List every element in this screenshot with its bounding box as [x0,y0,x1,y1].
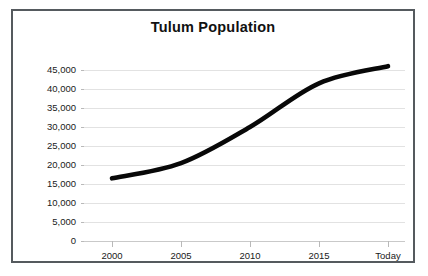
y-axis-label-0: 0 [71,235,76,246]
y-axis-label-45000: 45,000 [47,64,76,75]
x-axis-label-2010: 2010 [239,250,260,261]
y-axis-label-25000: 25,000 [47,140,76,151]
chart-frame: Tulum Population [11,9,415,263]
y-axis-label-5000: 5,000 [52,216,76,227]
y-axis-label-35000: 35,000 [47,102,76,113]
y-axis-label-10000: 10,000 [47,197,76,208]
y-axis-label-15000: 15,000 [47,178,76,189]
x-axis-label-2005: 2005 [170,250,191,261]
x-axis-ticks [112,241,388,247]
y-axis-labels: 45,000 40,000 35,000 30,000 25,000 20,00… [47,64,76,246]
population-line-series [112,66,388,178]
y-axis-label-30000: 30,000 [47,121,76,132]
x-axis-label-today: Today [375,250,401,261]
gridlines [84,70,405,222]
line-chart-plot: 45,000 40,000 35,000 30,000 25,000 20,00… [13,11,417,265]
y-axis-label-40000: 40,000 [47,83,76,94]
y-axis-label-20000: 20,000 [47,159,76,170]
y-axis-ticks [81,70,84,241]
x-axis-labels: 2000 2005 2010 2015 Today [101,250,400,261]
x-axis-label-2015: 2015 [308,250,329,261]
x-axis-label-2000: 2000 [101,250,122,261]
